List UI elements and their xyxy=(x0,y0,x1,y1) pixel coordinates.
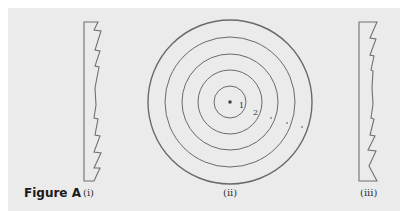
figure-drawing: 1 2 xyxy=(0,0,400,211)
caption-iii: (iii) xyxy=(360,187,377,198)
zone-label-1: 1 xyxy=(239,101,244,110)
caption-i: (i) xyxy=(83,187,94,198)
caption-ii: (ii) xyxy=(223,187,237,198)
zone-label-2: 2 xyxy=(253,108,258,117)
lens-profile-iii xyxy=(359,22,377,181)
center-dot xyxy=(228,100,232,104)
lens-profile-i xyxy=(84,22,101,181)
figure-label: Figure A xyxy=(24,186,81,200)
